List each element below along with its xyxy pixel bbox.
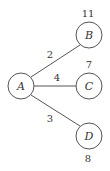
- node-b-value: 11: [82, 8, 95, 19]
- node-c-label: C: [85, 80, 94, 93]
- node-b-label: B: [84, 29, 93, 42]
- node-d-value: 8: [85, 153, 91, 164]
- edge-weight-a-b: 2: [47, 49, 53, 60]
- edge-weight-a-c: 4: [54, 72, 60, 83]
- edge-a-d: [31, 95, 80, 126]
- node-b: B 11: [76, 8, 102, 48]
- edge-weight-a-d: 3: [47, 113, 53, 124]
- graph-diagram: 2 4 3 A B 11 C 7 D 8: [0, 0, 110, 171]
- node-a: A: [8, 73, 34, 99]
- node-c: C 7: [76, 59, 102, 99]
- node-a-label: A: [16, 80, 25, 93]
- node-c-value: 7: [86, 59, 92, 70]
- node-d-label: D: [84, 130, 94, 143]
- node-d: D 8: [76, 123, 102, 164]
